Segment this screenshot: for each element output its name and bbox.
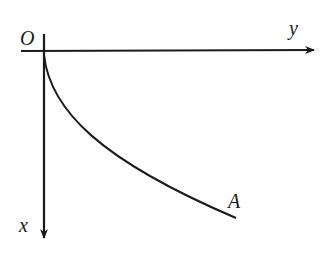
y-axis-label: y: [287, 17, 298, 40]
x-axis-label: x: [18, 214, 28, 236]
curve-oa: [44, 55, 236, 218]
point-a-label: A: [226, 190, 241, 212]
coordinate-diagram: O y A x: [0, 0, 332, 253]
origin-label: O: [20, 27, 34, 49]
y-axis-horizontal: [21, 50, 314, 51]
